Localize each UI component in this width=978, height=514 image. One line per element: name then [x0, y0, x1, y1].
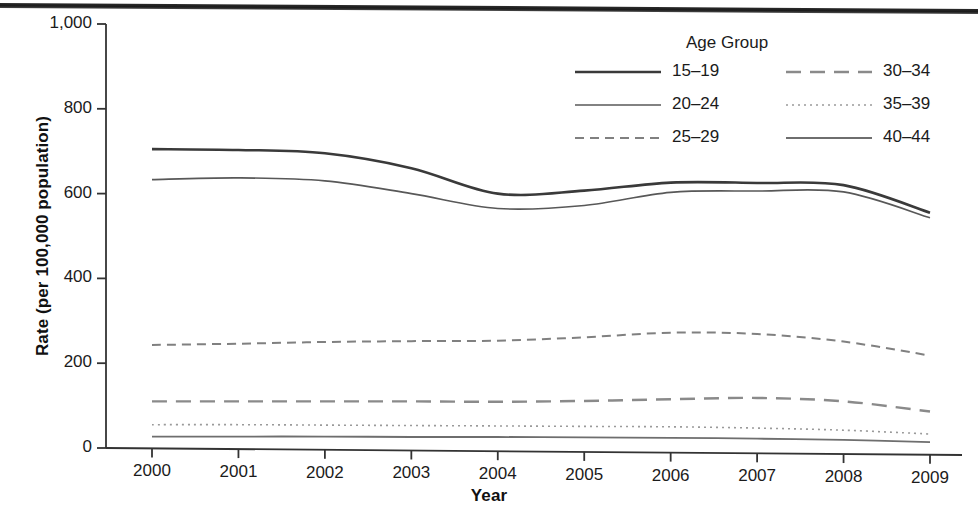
x-tick-label: 2008	[804, 467, 884, 487]
chart-figure: Rate (per 100,000 population) Year 02004…	[0, 0, 978, 514]
legend-label-15-19: 15–19	[672, 61, 719, 81]
x-tick-label: 2006	[631, 466, 711, 486]
x-tick-label: 2002	[285, 463, 365, 483]
x-tick-label: 2001	[198, 462, 278, 482]
series-line-40-44	[152, 437, 930, 443]
series-line-35-39	[152, 425, 930, 434]
series-line-25-29	[152, 332, 930, 355]
y-tick-label: 200	[20, 352, 92, 372]
x-tick-label: 2004	[458, 464, 538, 484]
y-tick-label: 600	[20, 183, 92, 203]
legend-label-40-44: 40–44	[883, 127, 930, 147]
series-line-30-34	[152, 398, 930, 412]
x-tick-label: 2003	[371, 463, 451, 483]
legend-label-35-39: 35–39	[883, 94, 930, 114]
y-tick-label: 800	[20, 98, 92, 118]
legend-label-20-24: 20–24	[672, 94, 719, 114]
series-line-15-19	[152, 149, 930, 213]
legend-label-30-34: 30–34	[883, 61, 930, 81]
x-tick-label: 2005	[544, 465, 624, 485]
legend-title: Age Group	[686, 33, 768, 53]
x-tick-label: 2009	[890, 468, 970, 488]
y-tick-label: 0	[20, 437, 92, 457]
x-axis-line	[106, 448, 962, 455]
line-chart-plot	[0, 0, 978, 514]
x-axis-title: Year	[0, 486, 978, 506]
y-tick-label: 1,000	[20, 13, 92, 33]
x-tick-label: 2000	[112, 461, 192, 481]
y-tick-label: 400	[20, 267, 92, 287]
x-tick-label: 2007	[717, 466, 797, 486]
legend-label-25-29: 25–29	[672, 127, 719, 147]
